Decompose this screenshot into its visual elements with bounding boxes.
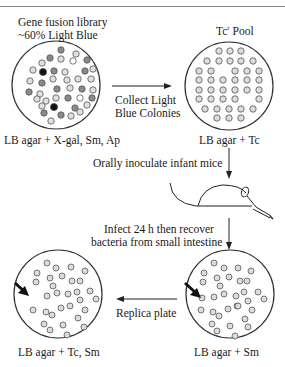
plate-library <box>12 41 100 129</box>
plate3-media-label: LB agar + Sm <box>194 345 259 359</box>
plate4-media-label: LB agar + Tc, Sm <box>18 345 100 359</box>
step-recover-line1: Infect 24 h then recover <box>104 222 214 236</box>
plate-tc-pool <box>185 42 273 130</box>
pool-title-rest: Pool <box>230 25 254 37</box>
pool-title: Tcr Pool <box>216 21 254 38</box>
step-collect-line1: Collect Light <box>115 93 176 107</box>
arrow-collect <box>112 83 172 89</box>
library-title-line2: ~60% Light Blue <box>18 28 98 42</box>
step-collect-line2: Blue Colonies <box>115 106 181 120</box>
step-replica-label: Replica plate <box>116 306 176 320</box>
plate1-media-label: LB agar + X-gal, Sm, Ap <box>4 133 120 147</box>
pool-title-tc: Tc <box>216 25 227 37</box>
plate-sm <box>185 250 274 339</box>
arrow-inoculate <box>226 148 232 179</box>
arrow-replica <box>116 296 177 302</box>
step-inoculate-label: Orally inoculate infant mice <box>93 156 222 170</box>
plate-tc-sm <box>14 250 102 338</box>
step-recover-line2: bacteria from small intestine <box>91 235 222 249</box>
plate2-media-label: LB agar + Tc <box>199 133 260 147</box>
arrow-recover <box>226 218 232 250</box>
mouse-icon <box>170 183 273 219</box>
library-title-line1: Gene fusion library <box>18 15 107 29</box>
